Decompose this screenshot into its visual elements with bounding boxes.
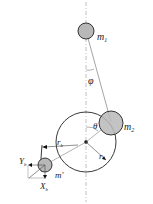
radius-r-line [86, 142, 106, 160]
rotor-to-m2-line [86, 130, 101, 142]
theta-label: θ [93, 121, 98, 131]
rb-arrowhead [42, 145, 47, 149]
m1-label: m1 [97, 31, 107, 43]
phi-label: φ [88, 75, 94, 86]
yb-label: Yb [19, 156, 27, 167]
mprime-label: m' [55, 170, 64, 180]
yb-arrowhead [28, 163, 32, 167]
m2-label: m2 [124, 121, 134, 133]
xb-label: Xb [39, 181, 49, 192]
phi-angle-arc [86, 69, 94, 70]
rb-label: rb [57, 137, 64, 148]
mass-m1 [78, 23, 94, 39]
xb-arrowhead [43, 175, 47, 179]
r-label: r [99, 151, 103, 161]
pendulum-rotor-diagram: φ m1 m2 θ r rb m' Yb Xb [0, 0, 153, 204]
mass-m2 [99, 111, 123, 135]
